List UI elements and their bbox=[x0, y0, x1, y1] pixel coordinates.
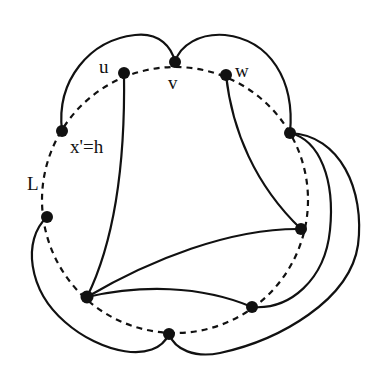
edge-v-rt bbox=[175, 35, 291, 133]
node-w bbox=[220, 69, 232, 81]
node-b bbox=[163, 328, 175, 340]
label-L: L bbox=[27, 173, 39, 194]
edge-rt-r bbox=[290, 133, 330, 229]
edge-bl-br bbox=[87, 289, 252, 307]
edge-rt-b bbox=[169, 133, 359, 354]
node-rt bbox=[284, 127, 296, 139]
node-x-h bbox=[56, 125, 68, 137]
diagram-canvas: u v w x'=h L bbox=[0, 0, 385, 385]
edge-u-bl bbox=[87, 73, 124, 297]
edge-bl-r bbox=[87, 229, 301, 297]
edge-l-b bbox=[32, 217, 169, 352]
node-bl bbox=[81, 291, 94, 304]
node-l bbox=[41, 211, 53, 223]
edge-x-v bbox=[61, 35, 175, 131]
label-x-h: x'=h bbox=[70, 136, 104, 157]
node-v bbox=[169, 56, 181, 68]
label-v: v bbox=[168, 72, 178, 93]
node-u bbox=[118, 67, 130, 79]
label-u: u bbox=[99, 56, 109, 77]
graph-drawing: u v w x'=h L bbox=[0, 0, 385, 385]
node-br bbox=[246, 301, 258, 313]
label-w: w bbox=[235, 60, 249, 81]
node-r bbox=[295, 223, 307, 235]
